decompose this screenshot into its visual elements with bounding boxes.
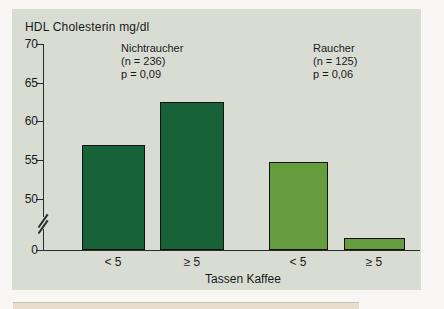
x-axis-title: Tassen Kaffee: [183, 272, 303, 286]
y-tick-label-55: 55: [10, 153, 38, 167]
annotation-nichtraucher-p: p = 0,09: [121, 68, 183, 81]
x-label-raucher-ge5: ≥ 5: [354, 255, 394, 269]
annotation-nichtraucher-n: (n = 236): [121, 55, 183, 68]
cropped-element-edge: [13, 302, 359, 309]
x-label-raucher-lt5: < 5: [278, 255, 318, 269]
x-label-nichtraucher-lt5: < 5: [93, 255, 133, 269]
y-tick-label-65: 65: [10, 76, 38, 90]
annotation-raucher: Raucher (n = 125) p = 0,06: [313, 42, 357, 81]
annotation-raucher-n: (n = 125): [313, 55, 357, 68]
chart-panel: HDL Cholesterin mg/dl 70 65 60 55 50 0 <…: [12, 9, 421, 290]
x-label-nichtraucher-ge5: ≥ 5: [172, 255, 212, 269]
chart-title: HDL Cholesterin mg/dl: [25, 20, 149, 34]
y-tick-label-70: 70: [10, 37, 38, 51]
bar-nichtraucher-lt5: [82, 145, 145, 250]
x-axis-line: [43, 250, 420, 251]
annotation-raucher-p: p = 0,06: [313, 68, 357, 81]
bar-raucher-ge5: [344, 238, 405, 250]
y-tick-label-60: 60: [10, 114, 38, 128]
bar-raucher-lt5: [269, 162, 328, 250]
annotation-nichtraucher: Nichtraucher (n = 236) p = 0,09: [121, 42, 183, 81]
bar-nichtraucher-ge5: [160, 102, 224, 250]
annotation-nichtraucher-name: Nichtraucher: [121, 42, 183, 55]
annotation-raucher-name: Raucher: [313, 42, 357, 55]
y-tick-label-0: 0: [10, 243, 38, 257]
y-tick-label-50: 50: [10, 192, 38, 206]
